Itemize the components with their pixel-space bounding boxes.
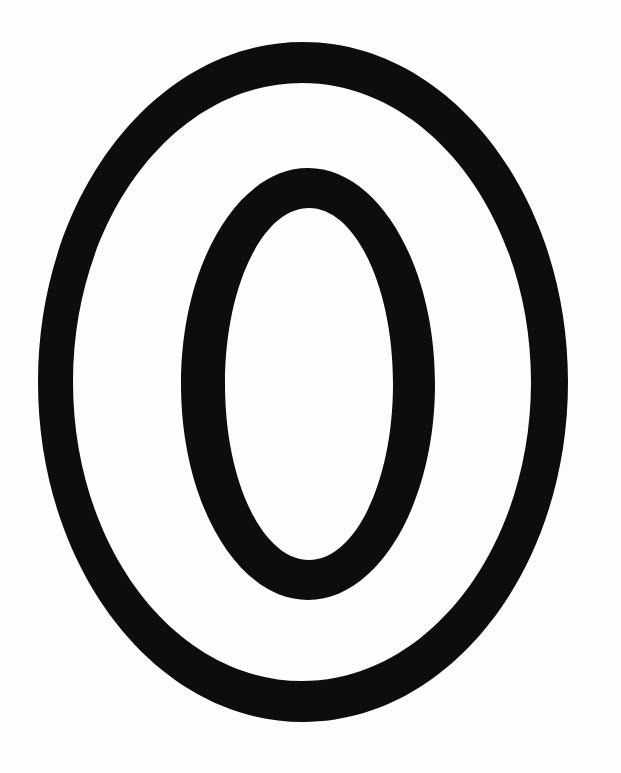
image-canvas: Letter O glyph Large bold outlined lette… bbox=[0, 0, 621, 773]
background-rect bbox=[0, 0, 621, 773]
letter-o-outline-icon bbox=[0, 0, 621, 773]
